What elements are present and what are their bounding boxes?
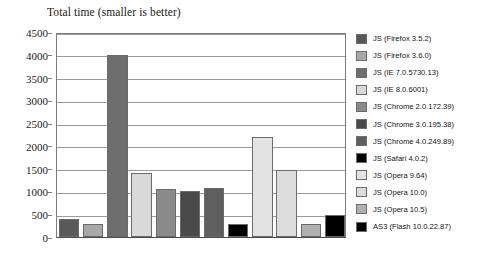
legend-item-label: JS (Opera 10.5) <box>373 205 427 214</box>
legend-swatch <box>356 222 367 232</box>
y-tick-mark <box>48 124 52 125</box>
legend-swatch <box>356 119 367 129</box>
legend-swatch <box>356 102 367 112</box>
y-tick-label: 1000 <box>26 186 48 198</box>
y-tick-label: 4000 <box>26 50 48 62</box>
bar <box>156 189 176 237</box>
y-tick-mark <box>48 101 52 102</box>
chart-title: Total time (smaller is better) <box>47 6 181 18</box>
legend-item-label: JS (IE 7.0.5730.13) <box>373 68 438 77</box>
legend-item[interactable]: JS (IE 7.0.5730.13) <box>356 64 477 81</box>
legend-item[interactable]: JS (IE 8.0.6001) <box>356 81 477 98</box>
y-tick-label: 3500 <box>26 73 48 85</box>
y-tick-label: 4500 <box>26 27 48 39</box>
y-tick-mark <box>48 78 52 79</box>
y-tick-mark <box>48 146 52 147</box>
bar <box>228 224 248 237</box>
y-tick-label: 3000 <box>26 95 48 107</box>
y-tick-mark <box>48 55 52 56</box>
legend-item-label: JS (Chrome 4.0.249.89) <box>373 137 454 146</box>
y-tick-mark <box>48 192 52 193</box>
bar <box>325 215 345 237</box>
legend-item-label: JS (Opera 9.64) <box>373 171 427 180</box>
y-tick-label: 500 <box>32 209 49 221</box>
legend-item[interactable]: JS (Chrome 4.0.249.89) <box>356 133 477 150</box>
y-tick-mark <box>48 238 52 239</box>
y-tick-label: 2500 <box>26 118 48 130</box>
legend-item-label: JS (Firefox 3.6.0) <box>373 51 431 60</box>
y-tick-mark <box>48 215 52 216</box>
bar <box>276 170 296 237</box>
legend-swatch <box>356 34 367 44</box>
legend-swatch <box>356 85 367 95</box>
bar-series <box>57 34 345 237</box>
legend-swatch <box>356 51 367 61</box>
legend-swatch <box>356 136 367 146</box>
chart-legend: JS (Firefox 3.5.2)JS (Firefox 3.6.0)JS (… <box>356 30 477 235</box>
legend-item-label: AS3 (Flash 10.0.22.87) <box>373 222 451 231</box>
legend-item[interactable]: AS3 (Flash 10.0.22.87) <box>356 218 477 235</box>
legend-item-label: JS (Chrome 3.0.195.38) <box>373 120 454 129</box>
y-tick-label: 1500 <box>26 164 48 176</box>
legend-swatch <box>356 68 367 78</box>
legend-item[interactable]: JS (Firefox 3.5.2) <box>356 30 477 47</box>
bar <box>180 191 200 237</box>
legend-item[interactable]: JS (Opera 9.64) <box>356 167 477 184</box>
legend-item-label: JS (IE 8.0.6001) <box>373 85 428 94</box>
legend-swatch <box>356 187 367 197</box>
legend-swatch <box>356 153 367 163</box>
legend-item[interactable]: JS (Chrome 2.0.172.39) <box>356 98 477 115</box>
legend-item-label: JS (Safari 4.0.2) <box>373 154 428 163</box>
plot-area <box>56 33 346 238</box>
bar <box>107 55 127 237</box>
bar <box>131 173 151 237</box>
y-tick-mark <box>48 33 52 34</box>
bar <box>204 188 224 237</box>
y-axis: 050010001500200025003000350040004500 <box>0 33 52 238</box>
y-tick-label: 2000 <box>26 141 48 153</box>
legend-item-label: JS (Chrome 2.0.172.39) <box>373 102 454 111</box>
legend-item[interactable]: JS (Safari 4.0.2) <box>356 150 477 167</box>
y-tick-mark <box>48 169 52 170</box>
bar-chart-figure: Total time (smaller is better) 050010001… <box>0 0 477 259</box>
legend-item[interactable]: JS (Opera 10.0) <box>356 184 477 201</box>
bar <box>83 224 103 237</box>
legend-swatch <box>356 170 367 180</box>
bar <box>59 219 79 237</box>
bar <box>301 224 321 237</box>
bar <box>252 137 272 237</box>
legend-item[interactable]: JS (Firefox 3.6.0) <box>356 47 477 64</box>
legend-item[interactable]: JS (Chrome 3.0.195.38) <box>356 115 477 132</box>
legend-item-label: JS (Opera 10.0) <box>373 188 427 197</box>
legend-item-label: JS (Firefox 3.5.2) <box>373 34 431 43</box>
legend-swatch <box>356 204 367 214</box>
legend-item[interactable]: JS (Opera 10.5) <box>356 201 477 218</box>
